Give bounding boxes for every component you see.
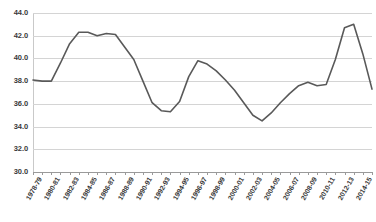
x-axis-tick — [216, 172, 217, 175]
y-axis-tick-label: 34.0 — [14, 123, 28, 131]
y-axis-tick-label: 32.0 — [14, 145, 28, 153]
x-axis-tick — [345, 172, 346, 175]
x-axis-tick — [198, 172, 199, 175]
x-axis-tick — [317, 172, 318, 175]
plot-area — [33, 13, 372, 172]
x-axis-tick — [143, 172, 144, 175]
y-axis-tick-label: 38.0 — [14, 77, 28, 85]
x-axis-tick — [42, 172, 43, 175]
y-axis-labels: 44.042.040.038.036.034.032.030.0 — [0, 0, 31, 222]
x-axis-tick — [79, 172, 80, 175]
x-axis-tick — [170, 172, 171, 175]
x-axis-tick — [363, 172, 364, 175]
y-axis-tick-label: 36.0 — [14, 100, 28, 108]
x-axis-tick — [372, 172, 373, 175]
x-axis-tick — [326, 172, 327, 175]
x-axis-tick — [290, 172, 291, 175]
x-axis-tick — [106, 172, 107, 175]
line-chart: 44.042.040.038.036.034.032.030.0 1978-79… — [0, 0, 376, 222]
y-axis-tick-label: 42.0 — [14, 32, 28, 40]
x-axis-tick — [271, 172, 272, 175]
x-axis-tick — [335, 172, 336, 175]
x-axis-tick — [70, 172, 71, 175]
x-axis-tick — [33, 172, 34, 175]
x-axis-tick — [161, 172, 162, 175]
x-axis-tick — [51, 172, 52, 175]
x-axis-tick — [280, 172, 281, 175]
x-axis-labels: 1978-791980-811982-831984-851986-871988-… — [33, 176, 376, 222]
x-axis-tick — [180, 172, 181, 175]
x-axis-tick — [262, 172, 263, 175]
x-axis-tick — [60, 172, 61, 175]
x-axis-tick — [225, 172, 226, 175]
x-axis-tick — [97, 172, 98, 175]
x-axis-tick — [189, 172, 190, 175]
x-axis-tick — [244, 172, 245, 175]
x-axis-tick — [152, 172, 153, 175]
x-axis-tick — [253, 172, 254, 175]
x-axis-tick — [235, 172, 236, 175]
x-axis-tick — [354, 172, 355, 175]
y-axis-tick-label: 30.0 — [14, 168, 28, 176]
x-axis-tick — [207, 172, 208, 175]
series-line — [33, 13, 372, 172]
x-axis-tick — [134, 172, 135, 175]
x-axis-tick — [125, 172, 126, 175]
x-axis-tick — [299, 172, 300, 175]
y-axis-tick-label: 40.0 — [14, 54, 28, 62]
x-axis-tick — [308, 172, 309, 175]
x-axis-tick-label: 2014-15 — [353, 176, 374, 204]
x-axis-tick — [115, 172, 116, 175]
x-axis-tick — [88, 172, 89, 175]
y-axis-tick-label: 44.0 — [14, 9, 28, 17]
